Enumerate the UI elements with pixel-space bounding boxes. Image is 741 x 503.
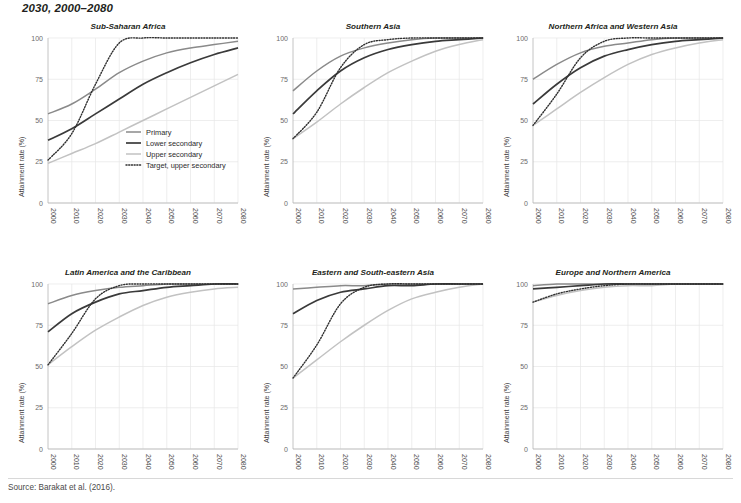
x-tick-label: 2070 bbox=[216, 454, 223, 470]
x-tick-label: 2050 bbox=[653, 454, 660, 470]
x-tick-label: 2080 bbox=[485, 454, 492, 470]
x-tick-label: 2060 bbox=[437, 454, 444, 470]
x-tick-label: 2010 bbox=[318, 454, 325, 470]
x-tick-label: 2040 bbox=[390, 454, 397, 470]
y-tick-label: 100 bbox=[276, 281, 288, 288]
x-tick-label: 2000 bbox=[535, 454, 542, 470]
x-tick-label: 2020 bbox=[342, 454, 349, 470]
x-tick-label: 2030 bbox=[366, 454, 373, 470]
x-tick-label: 2040 bbox=[390, 208, 397, 224]
x-tick-label: 2080 bbox=[240, 208, 247, 224]
x-tick-label: 2030 bbox=[606, 454, 613, 470]
x-tick-label: 2080 bbox=[240, 454, 247, 470]
x-tick-label: 2060 bbox=[437, 208, 444, 224]
x-tick-label: 2020 bbox=[342, 208, 349, 224]
y-tick-label: 25 bbox=[35, 158, 43, 165]
x-tick-label: 2060 bbox=[192, 208, 199, 224]
y-tick-label: 0 bbox=[284, 200, 288, 207]
x-tick-label: 2010 bbox=[558, 208, 565, 224]
x-tick-label: 2020 bbox=[582, 208, 589, 224]
y-tick-label: 100 bbox=[276, 35, 288, 42]
legend-label-primary: Primary bbox=[146, 128, 172, 137]
y-tick-label: 0 bbox=[39, 446, 43, 453]
x-tick-label: 2030 bbox=[606, 208, 613, 224]
footer-divider bbox=[8, 478, 733, 479]
y-tick-label: 0 bbox=[39, 200, 43, 207]
y-tick-label: 25 bbox=[35, 404, 43, 411]
x-tick-label: 2010 bbox=[73, 208, 80, 224]
x-tick-label: 2040 bbox=[145, 454, 152, 470]
x-tick-label: 2050 bbox=[413, 208, 420, 224]
source-note: Source: Barakat et al. (2016). bbox=[8, 483, 115, 492]
y-tick-label: 25 bbox=[520, 404, 528, 411]
figure-root: 2030, 2000–2080 Sub-Saharan AfricaAttain… bbox=[0, 0, 741, 503]
legend-label-upper-secondary: Upper secondary bbox=[146, 150, 203, 159]
plot-area: 0255075100200020102020203020402050206020… bbox=[495, 22, 731, 207]
y-tick-label: 0 bbox=[524, 200, 528, 207]
y-tick-label: 75 bbox=[520, 322, 528, 329]
panel-europe-and-northern-america: Europe and Northern AmericaAttainment ra… bbox=[495, 268, 731, 453]
y-tick-label: 25 bbox=[280, 158, 288, 165]
y-tick-label: 100 bbox=[31, 281, 43, 288]
figure-headline: 2030, 2000–2080 bbox=[22, 2, 113, 14]
y-axis-label: Attainment rate (%) bbox=[503, 383, 510, 443]
y-tick-label: 100 bbox=[516, 35, 528, 42]
x-tick-label: 2080 bbox=[725, 454, 732, 470]
x-tick-label: 2080 bbox=[485, 208, 492, 224]
panel-northern-africa-and-western-asia: Northern Africa and Western AsiaAttainme… bbox=[495, 22, 731, 207]
x-tick-label: 2050 bbox=[413, 454, 420, 470]
y-tick-label: 50 bbox=[35, 117, 43, 124]
x-tick-label: 2070 bbox=[701, 208, 708, 224]
y-tick-label: 50 bbox=[520, 117, 528, 124]
panel-title: Southern Asia bbox=[255, 22, 491, 31]
plot-area: 0255075100200020102020203020402050206020… bbox=[495, 268, 731, 453]
y-axis-label: Attainment rate (%) bbox=[263, 383, 270, 443]
y-tick-label: 50 bbox=[280, 363, 288, 370]
panel-title: Eastern and South-eastern Asia bbox=[255, 268, 491, 277]
x-tick-label: 2060 bbox=[677, 208, 684, 224]
y-tick-label: 50 bbox=[35, 363, 43, 370]
panel-title: Sub-Saharan Africa bbox=[10, 22, 246, 31]
panel-southern-asia: Southern AsiaAttainment rate (%)02550751… bbox=[255, 22, 491, 207]
y-tick-label: 25 bbox=[280, 404, 288, 411]
panel-title: Europe and Northern America bbox=[495, 268, 731, 277]
x-tick-label: 2020 bbox=[97, 208, 104, 224]
panel-sub-saharan-africa: Sub-Saharan AfricaAttainment rate (%)025… bbox=[10, 22, 246, 207]
x-tick-label: 2060 bbox=[192, 454, 199, 470]
panel-eastern-and-south-eastern-asia: Eastern and South-eastern AsiaAttainment… bbox=[255, 268, 491, 453]
x-tick-label: 2010 bbox=[558, 454, 565, 470]
y-tick-label: 50 bbox=[520, 363, 528, 370]
x-tick-label: 2020 bbox=[97, 454, 104, 470]
y-axis-label: Attainment rate (%) bbox=[18, 383, 25, 443]
x-tick-label: 2040 bbox=[145, 208, 152, 224]
x-tick-label: 2030 bbox=[121, 208, 128, 224]
x-tick-label: 2040 bbox=[630, 454, 637, 470]
x-tick-label: 2000 bbox=[295, 208, 302, 224]
x-tick-label: 2030 bbox=[121, 454, 128, 470]
x-tick-label: 2050 bbox=[168, 208, 175, 224]
legend-label-target-upper-secondary: Target, upper secondary bbox=[146, 161, 226, 170]
y-axis-label: Attainment rate (%) bbox=[18, 137, 25, 197]
x-tick-label: 2000 bbox=[50, 454, 57, 470]
x-tick-label: 2070 bbox=[461, 454, 468, 470]
x-tick-label: 2070 bbox=[701, 454, 708, 470]
y-tick-label: 0 bbox=[284, 446, 288, 453]
y-tick-label: 75 bbox=[280, 322, 288, 329]
x-tick-label: 2070 bbox=[461, 208, 468, 224]
x-tick-label: 2010 bbox=[73, 454, 80, 470]
plot-area: 0255075100200020102020203020402050206020… bbox=[10, 22, 246, 207]
y-tick-label: 75 bbox=[35, 322, 43, 329]
x-tick-label: 2040 bbox=[630, 208, 637, 224]
y-tick-label: 75 bbox=[520, 76, 528, 83]
y-axis-label: Attainment rate (%) bbox=[263, 137, 270, 197]
y-tick-label: 100 bbox=[31, 35, 43, 42]
panel-latin-america-and-the-caribbean: Latin America and the CaribbeanAttainmen… bbox=[10, 268, 246, 453]
y-tick-label: 75 bbox=[280, 76, 288, 83]
y-tick-label: 100 bbox=[516, 281, 528, 288]
x-tick-label: 2020 bbox=[582, 454, 589, 470]
panel-title: Northern Africa and Western Asia bbox=[495, 22, 731, 31]
x-tick-label: 2030 bbox=[366, 208, 373, 224]
y-tick-label: 50 bbox=[280, 117, 288, 124]
plot-area: 0255075100200020102020203020402050206020… bbox=[255, 268, 491, 453]
x-tick-label: 2000 bbox=[50, 208, 57, 224]
